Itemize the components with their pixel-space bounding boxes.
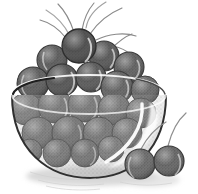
cherry	[154, 146, 184, 176]
cherry-bowl-illustration: Bowl of Cherries still life illustration…	[0, 0, 198, 194]
still-life-scene	[0, 0, 198, 194]
cherry	[125, 149, 155, 179]
cherry	[17, 67, 49, 99]
cherry	[46, 64, 78, 96]
cherry	[62, 29, 96, 63]
